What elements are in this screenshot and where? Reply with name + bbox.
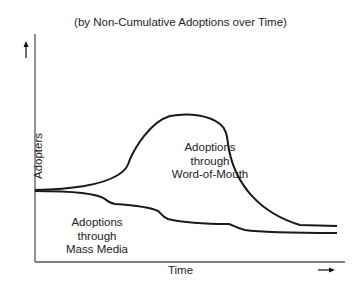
label-line: Mass Media	[57, 243, 137, 257]
up-arrow-icon	[24, 41, 29, 58]
label-line: through	[57, 230, 137, 244]
label-line: through	[165, 155, 255, 169]
y-axis-label: Adopters	[32, 126, 44, 186]
label-line: Word-of-Mouth	[165, 168, 255, 182]
label-line: Adoptions	[165, 141, 255, 155]
word-of-mouth-label: Adoptions through Word-of-Mouth	[165, 141, 255, 182]
label-line: Adoptions	[57, 216, 137, 230]
mass-media-label: Adoptions through Mass Media	[57, 216, 137, 257]
x-axis-label: Time	[0, 264, 361, 276]
